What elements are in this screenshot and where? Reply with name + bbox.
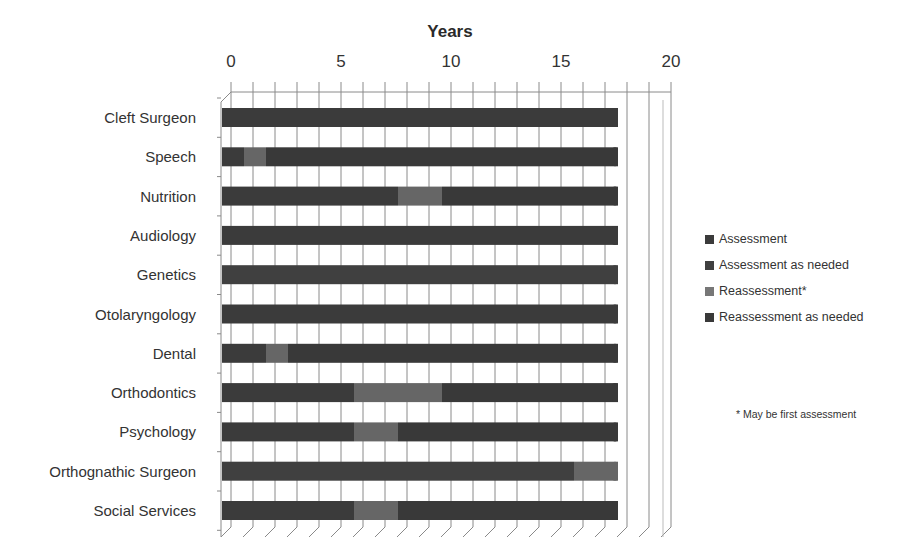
legend-swatch-icon xyxy=(705,313,714,322)
legend: Assessment Assessment as needed Reassess… xyxy=(705,226,864,330)
footnote: * May be first assessment xyxy=(736,408,856,420)
legend-item: Assessment xyxy=(705,226,864,252)
category-label: Otolaryngology xyxy=(95,306,196,323)
category-label: Orthodontics xyxy=(111,384,196,401)
category-label: Dental xyxy=(153,345,196,362)
category-label: Cleft Surgeon xyxy=(104,109,196,126)
legend-item: Reassessment as needed xyxy=(705,304,864,330)
legend-label: Assessment xyxy=(719,232,787,246)
category-label: Psychology xyxy=(119,423,196,440)
legend-swatch-icon xyxy=(705,287,714,296)
legend-item: Assessment as needed xyxy=(705,252,864,278)
legend-label: Reassessment* xyxy=(719,284,807,298)
legend-label: Reassessment as needed xyxy=(719,310,864,324)
category-label: Nutrition xyxy=(140,188,196,205)
legend-swatch-icon xyxy=(705,235,714,244)
category-label: Genetics xyxy=(137,266,196,283)
legend-label: Assessment as needed xyxy=(719,258,849,272)
legend-item: Reassessment* xyxy=(705,278,864,304)
legend-swatch-icon xyxy=(705,261,714,270)
category-label: Audiology xyxy=(130,227,196,244)
category-label: Social Services xyxy=(93,502,196,519)
category-label: Speech xyxy=(145,148,196,165)
category-label: Orthognathic Surgeon xyxy=(49,463,196,480)
